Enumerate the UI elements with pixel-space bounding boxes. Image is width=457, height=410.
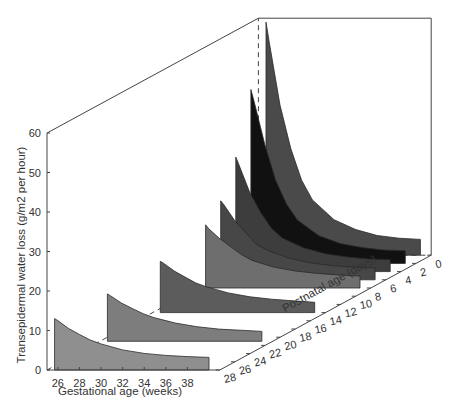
box-edge-top-left bbox=[47, 18, 258, 133]
z-tick-label: 30 bbox=[29, 246, 41, 258]
waterfall-chart: 0102030405060262830323436380246810121416… bbox=[0, 0, 457, 410]
y-tick-label: 26 bbox=[238, 362, 252, 376]
y-tick-label: 4 bbox=[404, 274, 412, 287]
y-tick-label: 12 bbox=[344, 305, 358, 319]
z-axis-label: Transepidermal water loss (g/m2 per hour… bbox=[15, 146, 27, 363]
y-tick-label: 28 bbox=[223, 371, 237, 385]
y-tick-label: 18 bbox=[298, 330, 312, 344]
x-tick-label: 38 bbox=[181, 377, 193, 389]
y-tick-label: 6 bbox=[389, 282, 397, 295]
z-tick-label: 10 bbox=[29, 325, 41, 337]
y-tick-label: 0 bbox=[434, 257, 442, 270]
surfaces bbox=[55, 22, 421, 370]
y-tick-label: 10 bbox=[359, 297, 373, 311]
y-tick-label: 14 bbox=[328, 313, 342, 327]
y-tick-label: 2 bbox=[419, 265, 427, 278]
y-tick-label: 20 bbox=[283, 338, 297, 352]
z-tick-label: 50 bbox=[29, 167, 41, 179]
y-tick-label: 22 bbox=[268, 346, 282, 360]
z-tick-label: 20 bbox=[29, 285, 41, 297]
y-tick-label: 16 bbox=[313, 321, 327, 335]
z-tick-label: 40 bbox=[29, 206, 41, 218]
y-tick-label: 8 bbox=[374, 290, 382, 303]
y-tick-label: 24 bbox=[253, 354, 267, 368]
x-axis-label: Gestational age (weeks) bbox=[58, 385, 182, 397]
z-tick-label: 0 bbox=[35, 364, 41, 376]
z-tick-label: 60 bbox=[29, 127, 41, 139]
